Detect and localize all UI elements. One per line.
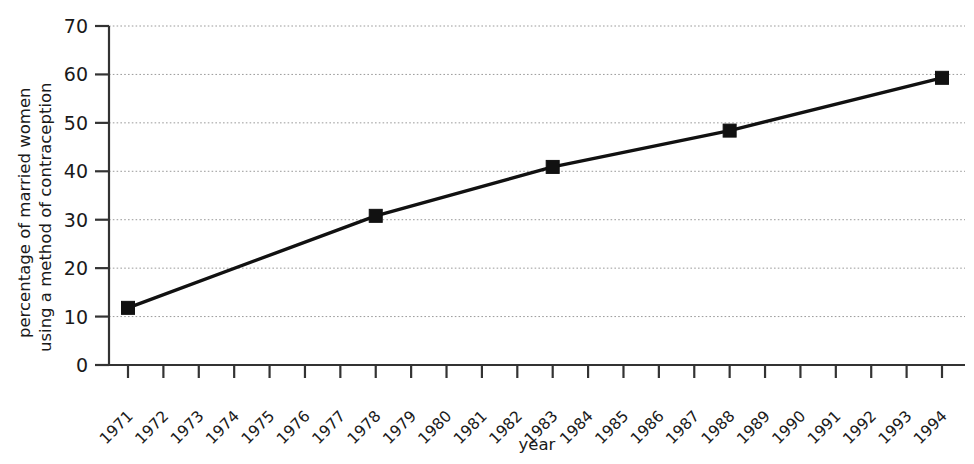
data-point-1983 — [546, 160, 559, 173]
x-tick-label-1973: 1973 — [167, 407, 208, 448]
y-tick-label-70: 70 — [64, 15, 88, 37]
x-tick-label-1977: 1977 — [309, 407, 350, 448]
x-tick-label-1991: 1991 — [804, 407, 845, 448]
y-axis-label-line1: percentage of married women — [15, 87, 34, 338]
x-tick-label-1976: 1976 — [273, 407, 314, 448]
data-point-1971 — [122, 301, 135, 314]
y-tick-label-10: 10 — [64, 306, 88, 328]
x-tick-label-1971: 1971 — [96, 407, 137, 448]
x-tick-label-1974: 1974 — [202, 407, 243, 448]
x-tick-label-1979: 1979 — [379, 407, 420, 448]
x-tick-label-1975: 1975 — [238, 407, 279, 448]
x-tick-label-1980: 1980 — [415, 407, 456, 448]
axes-group — [95, 26, 965, 365]
data-point-1994 — [936, 71, 949, 84]
y-tick-label-20: 20 — [64, 257, 88, 279]
x-tick-label-1985: 1985 — [592, 407, 633, 448]
x-tick-label-1986: 1986 — [627, 407, 668, 448]
y-tick-label-50: 50 — [64, 112, 88, 134]
y-tick-label-40: 40 — [64, 160, 88, 182]
chart-canvas: 010203040506070 197119721973197419751976… — [0, 0, 974, 464]
x-tick-group — [128, 365, 942, 378]
x-tick-label-1993: 1993 — [875, 407, 916, 448]
x-tick-label-1984: 1984 — [556, 407, 597, 448]
x-tick-label-1992: 1992 — [839, 407, 880, 448]
y-tick-label-30: 30 — [64, 209, 88, 231]
x-tick-label-1987: 1987 — [662, 407, 703, 448]
series-polyline — [128, 78, 942, 308]
x-tick-label-1981: 1981 — [450, 407, 491, 448]
data-point-1988 — [723, 124, 736, 137]
x-tick-label-1990: 1990 — [769, 407, 810, 448]
y-tick-group — [95, 26, 109, 365]
y-tick-label-60: 60 — [64, 63, 88, 85]
data-series-line — [128, 78, 942, 308]
y-tick-label-group: 010203040506070 — [64, 15, 88, 376]
x-tick-label-1989: 1989 — [733, 407, 774, 448]
y-tick-label-0: 0 — [76, 354, 88, 376]
x-tick-label-1972: 1972 — [132, 407, 173, 448]
x-axis-label: year — [519, 435, 556, 454]
x-tick-label-1988: 1988 — [698, 407, 739, 448]
data-point-1978 — [369, 209, 382, 222]
x-tick-label-1994: 1994 — [910, 407, 951, 448]
contraception-usage-line-chart: 010203040506070 197119721973197419751976… — [0, 0, 974, 464]
x-tick-label-1978: 1978 — [344, 407, 385, 448]
y-axis-label-line2: using a method of contraception — [36, 82, 55, 352]
